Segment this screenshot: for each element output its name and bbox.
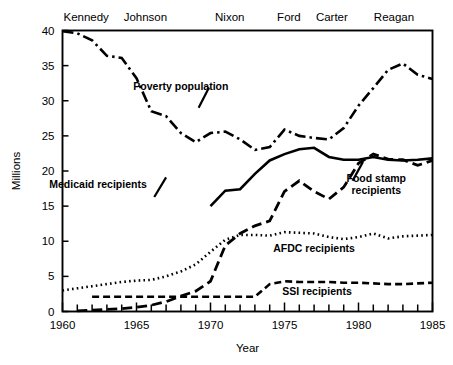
plot-frame xyxy=(63,31,433,312)
poverty-programs-chart: KennedyJohnsonNixonFordCarterReagan 1960… xyxy=(0,0,453,365)
series-labels-group: Poverty populationMedicaid recipientsFoo… xyxy=(49,80,406,298)
president-nixon: Nixon xyxy=(215,11,244,23)
president-johnson: Johnson xyxy=(124,11,167,23)
y-tick-label: 25 xyxy=(42,130,55,142)
x-tick-label: 1975 xyxy=(272,319,298,331)
x-tick-label: 1970 xyxy=(198,319,224,331)
x-tick-label: 1965 xyxy=(124,319,150,331)
president-carter: Carter xyxy=(316,11,348,23)
y-axis-title: Millions xyxy=(10,152,22,191)
series-label-ssi-recipients: SSI recipients xyxy=(282,285,352,297)
series-label-medicaid-recipients: Medicaid recipients xyxy=(49,178,147,190)
president-labels-group: KennedyJohnsonNixonFordCarterReagan xyxy=(63,11,414,23)
y-tick-label: 35 xyxy=(42,60,55,72)
series-label-poverty-population: Poverty population xyxy=(133,80,228,92)
series-line-afdc-recipients xyxy=(63,232,433,290)
leader-medicaid-recipients xyxy=(154,177,166,197)
president-kennedy: Kennedy xyxy=(63,11,109,23)
plot-frame-group xyxy=(63,31,433,312)
y-tick-label: 0 xyxy=(48,306,54,318)
data-series-group xyxy=(63,31,433,311)
x-axis-title: Year xyxy=(236,342,259,354)
president-ford: Ford xyxy=(277,11,301,23)
series-label-afdc-recipients: AFDC recipients xyxy=(273,242,355,254)
y-tick-label: 10 xyxy=(42,235,55,247)
y-tick-label: 5 xyxy=(48,270,54,282)
y-tick-label: 40 xyxy=(42,25,55,37)
y-tick-label: 20 xyxy=(42,165,55,177)
x-tick-labels-group: 196019651970197519801985 xyxy=(50,319,446,331)
series-line-poverty-population xyxy=(63,31,433,150)
x-tick-label: 1980 xyxy=(346,319,372,331)
y-tick-label: 15 xyxy=(42,200,55,212)
series-line-ssi-recipients xyxy=(92,281,432,296)
x-tick-label: 1960 xyxy=(50,319,76,331)
y-tick-labels-group: 0510152025303540 xyxy=(42,25,55,318)
y-tick-label: 30 xyxy=(42,95,55,107)
chart-canvas: KennedyJohnsonNixonFordCarterReagan 1960… xyxy=(0,0,453,365)
x-tick-label: 1985 xyxy=(420,319,446,331)
axis-ticks-group xyxy=(63,31,433,312)
label-leader-lines-group xyxy=(154,87,363,197)
president-reagan: Reagan xyxy=(374,11,414,23)
